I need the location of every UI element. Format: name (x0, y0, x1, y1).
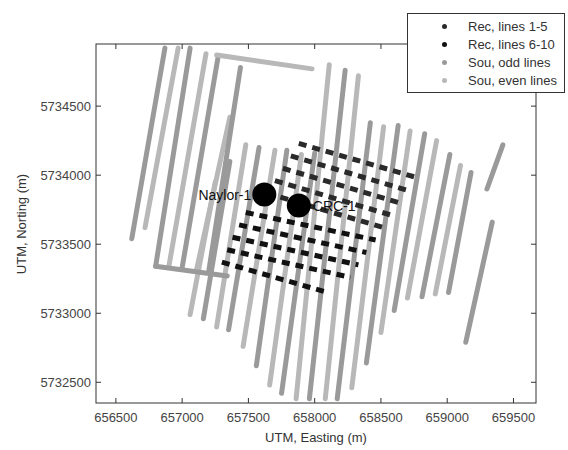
x-tick-label: 659000 (426, 410, 469, 425)
legend-dot-icon (442, 78, 447, 83)
well-marker-icon (252, 183, 276, 207)
well-label: CRC-1 (313, 198, 356, 214)
x-tick-label: 659500 (492, 410, 535, 425)
legend-label: Rec, lines 1-5 (468, 19, 547, 34)
source-line (243, 150, 275, 346)
x-tick-label: 658500 (359, 410, 402, 425)
legend-dot-icon (442, 60, 447, 65)
x-tick-label: 657000 (160, 410, 203, 425)
source-line (435, 166, 460, 294)
legend: Rec, lines 1-5 Rec, lines 6-10 Sou, odd … (407, 13, 565, 93)
source-line (466, 222, 493, 342)
legend-item-sou-even: Sou, even lines (408, 71, 564, 89)
y-tick-label: 5734000 (40, 168, 91, 183)
legend-item-rec-6-10: Rec, lines 6-10 (408, 35, 564, 53)
y-tick-label: 5733500 (40, 237, 91, 252)
source-line (156, 266, 228, 276)
legend-label: Sou, odd lines (468, 55, 550, 70)
source-line (487, 145, 503, 189)
y-tick-label: 5732500 (40, 375, 91, 390)
legend-dot-icon (442, 42, 447, 47)
x-tick-label: 657500 (227, 410, 270, 425)
y-axis-label: UTM, Norting (m) (14, 174, 29, 274)
x-tick-label: 656500 (94, 410, 137, 425)
legend-item-rec-1-5: Rec, lines 1-5 (408, 17, 564, 35)
source-line (217, 55, 312, 69)
legend-item-sou-odd: Sou, odd lines (408, 53, 564, 71)
x-axis-label: UTM, Easting (m) (265, 430, 367, 445)
source-lines (132, 48, 503, 399)
source-line (422, 154, 450, 296)
y-tick-label: 5733000 (40, 306, 91, 321)
legend-label: Sou, even lines (468, 73, 557, 88)
legend-label: Rec, lines 6-10 (468, 37, 555, 52)
source-line (449, 172, 472, 292)
legend-dot-icon (442, 24, 447, 29)
x-tick-label: 658000 (293, 410, 336, 425)
well-marker-icon (287, 194, 311, 218)
y-tick-label: 5734500 (40, 99, 91, 114)
well-label: Naylor-1 (198, 187, 251, 203)
